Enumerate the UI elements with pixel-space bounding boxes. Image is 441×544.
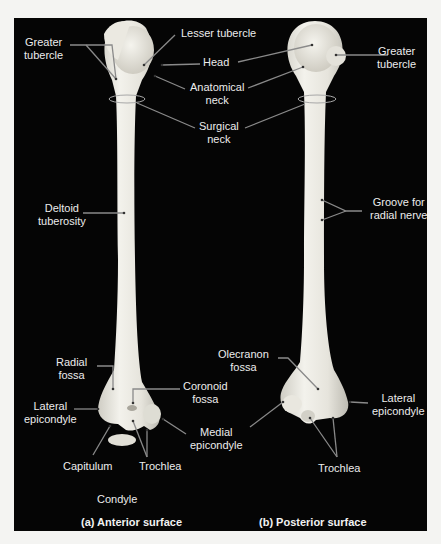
caption-posterior-surface: (b) Posterior surface xyxy=(259,516,367,528)
label-anterior-lesser-tubercle: Lesser tubercle xyxy=(181,27,256,40)
posterior-humerus xyxy=(280,21,348,424)
label-anterior-head: Head xyxy=(203,56,229,69)
label-anterior-greater-tubercle: Greater tubercle xyxy=(24,36,63,61)
label-posterior-olecranon-fossa: Olecranon fossa xyxy=(218,348,269,373)
label-anterior-condyle: Condyle xyxy=(97,493,137,506)
label-anterior-radial-fossa: Radial fossa xyxy=(56,356,87,381)
label-posterior-groove-for-radial-nerve: Groove for radial nerve xyxy=(370,196,427,221)
label-anterior-trochlea: Trochlea xyxy=(139,460,181,473)
label-anterior-medial-epicondyle: Medial epicondyle xyxy=(190,426,243,451)
label-anterior-surgical-neck: Surgical neck xyxy=(199,120,239,145)
label-anterior-coronoid-fossa: Coronoid fossa xyxy=(183,380,228,405)
caption-anterior-surface: (a) Anterior surface xyxy=(81,516,182,528)
label-anterior-anatomical-neck: Anatomical neck xyxy=(190,81,244,106)
label-anterior-deltoid-tuberosity: Deltoid tuberosity xyxy=(38,202,86,227)
label-anterior-capitulum: Capitulum xyxy=(63,460,113,473)
label-posterior-trochlea: Trochlea xyxy=(318,462,360,475)
label-posterior-greater-tubercle: Greater tubercle xyxy=(377,45,416,70)
label-posterior-lateral-epicondyle: Lateral epicondyle xyxy=(372,392,425,417)
label-anterior-lateral-epicondyle: Lateral epicondyle xyxy=(24,400,77,425)
anterior-humerus xyxy=(98,21,161,447)
